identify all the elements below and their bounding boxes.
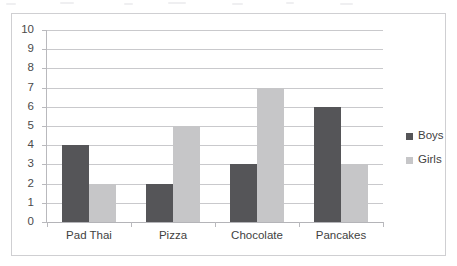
y-axis-tick-label: 1	[28, 197, 34, 209]
y-axis-tick	[42, 164, 47, 165]
y-axis-tick	[42, 203, 47, 204]
bar-girls-pizza	[173, 126, 200, 222]
y-axis-tick-label: 3	[28, 159, 34, 171]
y-axis-tick-label: 6	[28, 101, 34, 113]
y-axis-tick-label: 4	[28, 139, 34, 151]
x-axis-label-pad-thai: Pad Thai	[66, 230, 112, 242]
x-axis-label-chocolate: Chocolate	[231, 230, 283, 242]
x-axis-tick	[131, 222, 132, 227]
chart-frame: 012345678910 Pad ThaiPizzaChocolatePanca…	[11, 13, 446, 256]
y-axis-tick	[42, 126, 47, 127]
y-axis-tick-label: 2	[28, 178, 34, 190]
bar-boys-pancakes	[314, 107, 341, 222]
bar-girls-pad-thai	[89, 184, 116, 222]
legend-label-boys: Boys	[418, 130, 444, 142]
bar-boys-pad-thai	[62, 145, 89, 222]
x-axis-label-pizza: Pizza	[159, 230, 187, 242]
y-axis-tick	[42, 145, 47, 146]
gridline	[47, 88, 383, 89]
x-axis-tick	[215, 222, 216, 227]
x-axis-tick	[383, 222, 384, 227]
legend-swatch-girls-icon	[406, 157, 413, 164]
y-axis-tick	[42, 107, 47, 108]
bar-boys-chocolate	[230, 164, 257, 222]
y-axis-tick	[42, 88, 47, 89]
x-axis-label-pancakes: Pancakes	[316, 230, 367, 242]
y-axis-tick-label: 8	[28, 63, 34, 75]
gridline	[47, 49, 383, 50]
y-axis-tick-label: 9	[28, 43, 34, 55]
y-axis-tick-label: 7	[28, 82, 34, 94]
y-axis-tick-label: 0	[28, 216, 34, 228]
bar-boys-pizza	[146, 184, 173, 222]
scan-artifacts	[0, 0, 457, 11]
y-axis-tick-label: 5	[28, 120, 34, 132]
legend-label-girls: Girls	[418, 154, 442, 166]
legend-swatch-boys-icon	[406, 133, 413, 140]
chart-legend: Boys Girls	[406, 124, 457, 172]
x-axis-tick	[299, 222, 300, 227]
bar-girls-pancakes	[341, 164, 368, 222]
legend-item-girls: Girls	[406, 148, 457, 172]
y-axis-tick	[42, 30, 47, 31]
plot-area: 012345678910 Pad ThaiPizzaChocolatePanca…	[47, 30, 383, 222]
gridline	[47, 30, 383, 31]
y-axis-tick-label: 10	[21, 24, 34, 36]
bar-girls-chocolate	[257, 88, 284, 222]
legend-item-boys: Boys	[406, 124, 457, 148]
y-axis-tick	[42, 184, 47, 185]
y-axis-tick	[42, 68, 47, 69]
x-axis-tick	[47, 222, 48, 227]
gridline	[47, 68, 383, 69]
y-axis-tick	[42, 49, 47, 50]
